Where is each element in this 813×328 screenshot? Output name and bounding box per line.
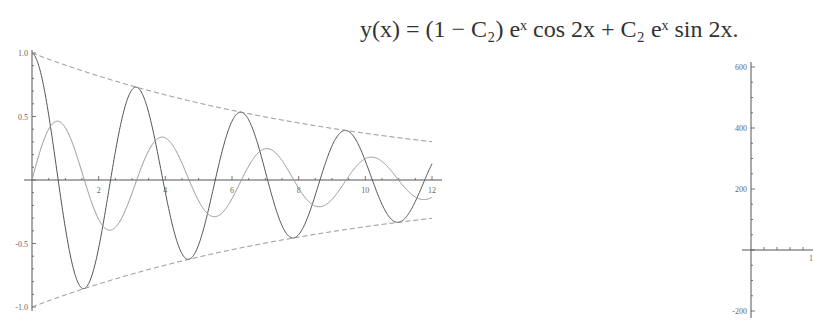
right-y-tick-label: -200: [732, 307, 747, 316]
upper-envelope: [32, 53, 432, 142]
y-tick-label: 1.0: [18, 49, 28, 58]
lower-envelope: [32, 218, 432, 307]
x-tick-label: 12: [428, 186, 436, 195]
chart-canvas: 246810121.00.5-0.5-1.0600400200-2001: [0, 0, 813, 328]
right-y-tick-label: 400: [735, 124, 747, 133]
y-tick-label: 0.5: [18, 113, 28, 122]
x-tick-label: 10: [361, 186, 369, 195]
series-sin-curve: [32, 121, 432, 230]
x-tick-label: 6: [230, 186, 234, 195]
right-y-tick-label: 600: [735, 63, 747, 72]
y-tick-label: -0.5: [15, 240, 28, 249]
y-tick-label: -1.0: [15, 303, 28, 312]
series-cos-curve: [32, 53, 432, 289]
x-tick-label: 2: [97, 186, 101, 195]
right-y-tick-label: 200: [735, 185, 747, 194]
right-x-tick-label: 1: [809, 254, 813, 263]
